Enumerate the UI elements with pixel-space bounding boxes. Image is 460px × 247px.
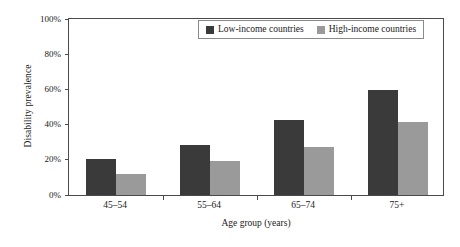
y-axis-tick-label: 40% xyxy=(45,120,66,129)
x-axis-category-label: 45–54 xyxy=(103,201,127,211)
bar-high-income xyxy=(210,161,240,195)
x-axis-category-label: 65–74 xyxy=(291,201,315,211)
y-axis-tick: 40% xyxy=(45,119,70,131)
y-axis-tick: 0% xyxy=(49,189,69,201)
bar-group xyxy=(163,19,257,195)
x-axis-tick-labels: 45–5455–6465–7475+ xyxy=(68,201,444,215)
y-axis-tick-label: 100% xyxy=(40,15,65,24)
legend-swatch-high-income xyxy=(317,26,325,34)
y-axis-tick-label: 80% xyxy=(45,50,66,59)
bars-layer xyxy=(69,19,443,195)
bar-high-income xyxy=(398,122,428,195)
legend-entry: High-income countries xyxy=(317,25,416,35)
y-axis-tick-mark xyxy=(65,89,69,90)
y-axis-tick: 80% xyxy=(45,48,70,60)
y-axis-tick: 20% xyxy=(45,154,70,166)
bar-group xyxy=(69,19,163,195)
y-axis-tick-label: 60% xyxy=(45,85,66,94)
bar-low-income xyxy=(368,90,398,195)
y-axis-tick-mark xyxy=(65,159,69,160)
x-axis-tick-mark xyxy=(351,195,352,200)
y-axis-tick: 60% xyxy=(45,83,70,95)
legend-entry: Low-income countries xyxy=(206,25,304,35)
bar-chart-figure: Disability prevalence 0%20%40%60%80%100%… xyxy=(0,0,460,247)
y-axis-tick-mark xyxy=(65,54,69,55)
y-axis-tick-mark xyxy=(65,124,69,125)
legend-swatch-low-income xyxy=(206,26,214,34)
plot-area: 0%20%40%60%80%100% xyxy=(68,18,444,196)
y-axis-tick-label: 0% xyxy=(49,191,65,200)
bar-high-income xyxy=(116,174,146,195)
y-axis-tick-mark xyxy=(65,19,69,20)
legend-label: High-income countries xyxy=(329,25,416,35)
y-axis-title: Disability prevalence xyxy=(23,16,33,196)
y-axis-tick: 100% xyxy=(40,13,69,25)
bar-low-income xyxy=(180,145,210,195)
x-axis-tick-mark xyxy=(163,195,164,200)
x-axis-title: Age group (years) xyxy=(68,218,444,228)
bar-group xyxy=(257,19,351,195)
bar-low-income xyxy=(274,120,304,195)
bar-high-income xyxy=(304,147,334,195)
x-axis-category-label: 55–64 xyxy=(197,201,221,211)
y-axis-tick-mark xyxy=(65,195,69,196)
legend-label: Low-income countries xyxy=(218,25,304,35)
x-axis-tick-mark xyxy=(257,195,258,200)
chart-legend: Low-income countriesHigh-income countrie… xyxy=(198,20,424,39)
bar-low-income xyxy=(86,159,116,195)
x-axis-category-label: 75+ xyxy=(390,201,405,211)
bar-group xyxy=(351,19,445,195)
y-axis-tick-label: 20% xyxy=(45,155,66,164)
